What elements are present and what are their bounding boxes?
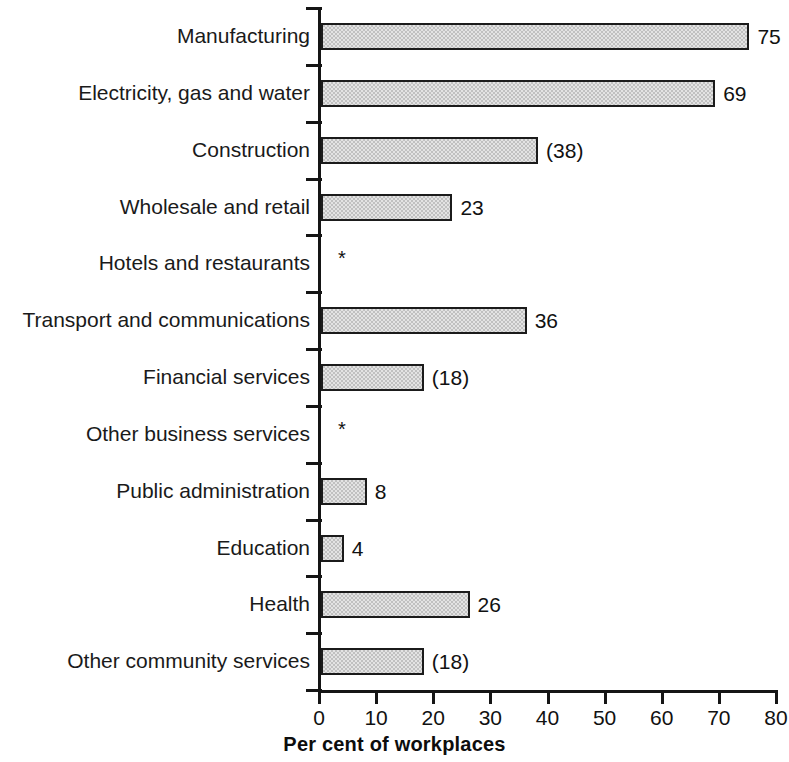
plot-area: Manufacturing75Electricity, gas and wate… — [0, 0, 789, 690]
category-label: Wholesale and retail — [120, 179, 310, 236]
x-axis-tick-label: 60 — [632, 706, 692, 730]
category-label: Public administration — [116, 463, 310, 520]
bar-row: Other community services(18) — [0, 633, 789, 690]
bar — [321, 23, 749, 50]
bar — [321, 648, 424, 675]
bar-row: Wholesale and retail23 — [0, 179, 789, 236]
bar-chart: Manufacturing75Electricity, gas and wate… — [0, 0, 789, 762]
bar-value-label: 69 — [723, 78, 746, 109]
category-label: Electricity, gas and water — [78, 65, 310, 122]
bar-row: Financial services(18) — [0, 349, 789, 406]
bar-row: Construction(38) — [0, 122, 789, 179]
category-label: Financial services — [143, 349, 310, 406]
category-label: Transport and communications — [22, 292, 310, 349]
category-label: Manufacturing — [177, 8, 310, 65]
x-axis-tick — [547, 690, 550, 704]
x-axis-tick — [604, 690, 607, 704]
category-label: Construction — [192, 122, 310, 179]
x-axis-title: Per cent of workplaces — [0, 733, 789, 756]
bar — [321, 591, 470, 618]
category-label: Other business services — [86, 406, 310, 463]
suppressed-value-marker: * — [338, 245, 346, 271]
bar — [321, 364, 424, 391]
x-axis-tick — [718, 690, 721, 704]
category-label: Education — [217, 520, 310, 577]
bar-row: Education4 — [0, 520, 789, 577]
category-label: Health — [249, 576, 310, 633]
x-axis-tick-label: 70 — [689, 706, 749, 730]
x-axis-tick — [661, 690, 664, 704]
x-axis-tick-label: 50 — [575, 706, 635, 730]
bar — [321, 137, 538, 164]
x-axis-tick — [489, 690, 492, 704]
bar-value-label: (18) — [432, 646, 469, 677]
bar-value-label: (18) — [432, 362, 469, 393]
bar-value-label: 36 — [535, 305, 558, 336]
bar-value-label: 8 — [375, 476, 387, 507]
bar-row: Transport and communications36 — [0, 292, 789, 349]
bar-value-label: 23 — [460, 192, 483, 223]
category-label: Other community services — [67, 633, 310, 690]
x-axis-tick-label: 20 — [403, 706, 463, 730]
bar-row: Health26 — [0, 576, 789, 633]
x-axis-tick — [318, 690, 321, 704]
bar — [321, 478, 367, 505]
bar-row: Electricity, gas and water69 — [0, 65, 789, 122]
x-axis-tick-label: 30 — [460, 706, 520, 730]
bar-row: Hotels and restaurants* — [0, 235, 789, 292]
bar — [321, 535, 344, 562]
y-axis-tick — [306, 7, 322, 10]
bar-value-label: (38) — [546, 135, 583, 166]
x-axis-tick — [775, 690, 778, 704]
bar — [321, 307, 527, 334]
x-axis-tick — [375, 690, 378, 704]
category-label: Hotels and restaurants — [99, 235, 310, 292]
bar — [321, 80, 715, 107]
bar-rows: Manufacturing75Electricity, gas and wate… — [0, 8, 789, 690]
bar-value-label: 26 — [478, 589, 501, 620]
bar-value-label: 4 — [352, 533, 364, 564]
bar-row: Other business services* — [0, 406, 789, 463]
x-axis-tick-label: 80 — [746, 706, 789, 730]
x-axis-tick-label: 10 — [346, 706, 406, 730]
x-axis-tick-label: 0 — [289, 706, 349, 730]
bar-row: Public administration8 — [0, 463, 789, 520]
bar-value-label: 75 — [757, 21, 780, 52]
bar — [321, 194, 452, 221]
x-axis-tick-label: 40 — [518, 706, 578, 730]
bar-row: Manufacturing75 — [0, 8, 789, 65]
x-axis-tick — [432, 690, 435, 704]
suppressed-value-marker: * — [338, 416, 346, 442]
